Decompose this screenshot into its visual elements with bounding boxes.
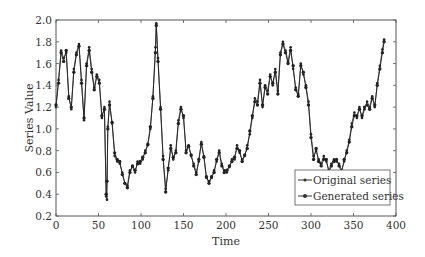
y-tick-label: 0.4 <box>35 188 52 200</box>
data-point <box>87 49 90 52</box>
data-point <box>274 68 277 71</box>
data-point <box>146 142 149 145</box>
data-point <box>205 175 208 178</box>
data-point <box>304 86 307 89</box>
data-point <box>358 108 361 111</box>
y-tick-label: 1.4 <box>35 79 52 91</box>
data-point <box>144 151 147 154</box>
y-tick-label: 1.0 <box>35 123 52 135</box>
data-point <box>291 64 294 67</box>
data-point <box>212 171 215 174</box>
x-tick-label: 50 <box>92 219 105 231</box>
data-point <box>345 151 348 154</box>
data-point <box>195 173 198 176</box>
data-point <box>200 142 203 145</box>
data-point <box>312 158 315 161</box>
data-point <box>174 151 177 154</box>
legend-label-original: Original series <box>313 174 391 186</box>
data-point <box>80 81 83 84</box>
data-point <box>197 158 200 161</box>
data-point <box>126 186 129 189</box>
data-point <box>230 160 233 163</box>
data-point <box>123 182 126 185</box>
data-point <box>248 129 251 132</box>
data-point <box>371 97 374 100</box>
data-point <box>279 53 282 56</box>
data-point <box>155 24 158 27</box>
data-point <box>284 51 287 54</box>
y-axis-label: Series Value <box>23 83 36 152</box>
data-point <box>366 100 369 103</box>
data-point <box>322 155 325 158</box>
data-point <box>108 100 111 103</box>
data-point <box>138 160 141 163</box>
data-point <box>70 105 73 108</box>
data-point <box>75 53 78 56</box>
data-point <box>276 92 279 95</box>
data-point <box>88 46 91 49</box>
x-tick-label: 0 <box>53 219 60 231</box>
data-point <box>113 151 116 154</box>
data-point <box>294 88 297 91</box>
data-point <box>121 173 124 176</box>
data-point <box>169 147 172 150</box>
data-point <box>325 158 328 161</box>
x-axis-label: Time <box>212 235 240 248</box>
data-point <box>67 97 70 100</box>
data-point <box>286 62 289 65</box>
y-tick-label: 1.2 <box>35 101 52 113</box>
data-point <box>110 121 113 124</box>
y-tick-label: 2.0 <box>35 14 52 26</box>
legend-label-generated: Generated series <box>313 190 404 202</box>
data-point <box>77 44 80 47</box>
data-point <box>259 79 262 82</box>
y-tick-label: 0.6 <box>35 166 52 178</box>
data-point <box>289 49 292 52</box>
data-point <box>302 71 305 74</box>
data-point <box>350 125 353 128</box>
data-point <box>154 51 157 54</box>
y-tick-label: 0.8 <box>35 145 52 157</box>
data-point <box>151 97 154 100</box>
data-point <box>378 67 381 70</box>
data-point <box>220 164 223 167</box>
data-point <box>289 46 292 49</box>
data-point <box>355 114 358 117</box>
y-tick-label: 0.2 <box>35 210 52 222</box>
data-point <box>104 193 107 196</box>
data-point <box>246 147 249 150</box>
data-point <box>297 95 300 98</box>
data-point <box>254 97 257 100</box>
data-point <box>159 108 162 111</box>
data-point <box>164 190 167 193</box>
data-point <box>309 136 312 139</box>
data-point <box>65 49 68 52</box>
data-point <box>256 103 259 106</box>
data-point <box>263 86 266 89</box>
data-point <box>131 164 134 167</box>
data-point <box>225 169 228 172</box>
data-point <box>307 103 310 106</box>
data-point <box>240 160 243 163</box>
data-point <box>167 166 170 169</box>
data-point <box>353 111 356 114</box>
data-point <box>149 125 152 128</box>
data-point <box>141 156 144 159</box>
data-point <box>342 158 345 161</box>
x-tick-label: 350 <box>343 219 363 231</box>
data-point <box>381 51 384 54</box>
data-point <box>128 171 131 174</box>
data-point <box>182 114 185 117</box>
data-point <box>118 160 121 163</box>
data-point <box>105 179 108 182</box>
data-point <box>106 198 109 201</box>
data-point <box>314 147 317 150</box>
data-point <box>59 51 62 54</box>
data-point <box>253 100 256 103</box>
data-point <box>98 81 101 84</box>
y-tick-label: 1.8 <box>35 36 52 48</box>
data-point <box>133 169 136 172</box>
data-point <box>156 60 159 63</box>
data-point <box>103 108 106 111</box>
data-point <box>169 144 172 147</box>
